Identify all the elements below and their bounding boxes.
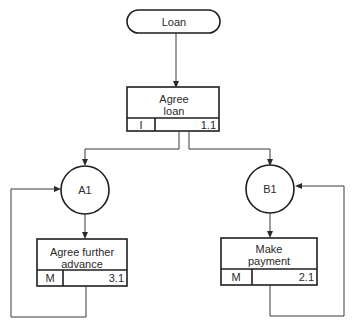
task-type: M — [231, 271, 240, 283]
task-box-agree-further-advance[interactable]: Agree further advance M 3.1 — [37, 239, 127, 286]
task-title-line2: loan — [164, 105, 185, 117]
arrow-right-icon — [54, 186, 61, 192]
connector-a1-to-agree-further-advance — [82, 214, 88, 239]
connector-agree-loan-to-a1 — [82, 131, 179, 166]
flowchart-canvas: Loan Agree loan I 1.1 A1 B1 — [0, 0, 355, 328]
start-label: Loan — [162, 16, 186, 28]
task-box-agree-loan[interactable]: Agree loan I 1.1 — [127, 87, 219, 131]
task-id: 3.1 — [109, 272, 124, 284]
arrow-down-icon — [267, 231, 273, 238]
task-box-make-payment[interactable]: Make payment M 2.1 — [221, 238, 317, 285]
task-type: I — [139, 119, 142, 131]
connector-loan-to-agree-loan — [173, 33, 179, 88]
node-label: A1 — [78, 184, 91, 196]
arrow-left-icon — [295, 183, 302, 189]
task-title-line1: Make — [256, 243, 283, 255]
connector-agree-loan-to-b1 — [189, 131, 273, 166]
task-type: M — [45, 272, 54, 284]
task-title-line2: advance — [61, 258, 103, 270]
node-label: B1 — [263, 183, 276, 195]
connector-b1-to-make-payment — [267, 213, 273, 238]
node-a1[interactable]: A1 — [61, 166, 109, 214]
task-id: 2.1 — [299, 271, 314, 283]
arrow-down-icon — [82, 159, 88, 166]
node-b1[interactable]: B1 — [246, 165, 294, 213]
task-id: 1.1 — [201, 119, 216, 131]
start-terminator-loan[interactable]: Loan — [127, 10, 220, 33]
task-title-line1: Agree further — [50, 246, 115, 258]
task-title-line2: payment — [248, 255, 290, 267]
task-title-line1: Agree — [159, 93, 188, 105]
arrow-down-icon — [82, 232, 88, 239]
